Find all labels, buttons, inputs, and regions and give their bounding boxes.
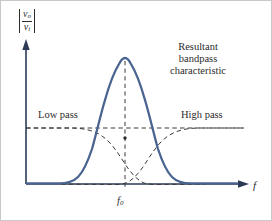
crossover-point-marker (123, 136, 126, 139)
bandpass-response-figure: vo vi Resultant bandpass characteristic … (0, 0, 272, 221)
resultant-annotation-line-3: characteristic (153, 65, 243, 77)
x-axis-label: f (253, 179, 256, 191)
y-axis (22, 39, 29, 184)
abs-bar-right (34, 9, 35, 33)
resultant-annotation-line-1: Resultant (153, 41, 243, 53)
resultant-annotation-line-2: bandpass (153, 53, 243, 65)
abs-bar-left (19, 9, 20, 33)
resultant-annotation: Resultant bandpass characteristic (153, 41, 243, 76)
f0-tick-label: f0 (117, 195, 123, 208)
numerator: vo (22, 9, 32, 20)
y-axis-label: vo vi (17, 9, 37, 33)
low-pass-annotation: Low pass (38, 109, 78, 121)
denominator: vi (23, 22, 31, 33)
low-pass-curve (26, 128, 206, 185)
transfer-ratio: vo vi (22, 9, 32, 33)
high-pass-annotation: High pass (181, 109, 223, 121)
